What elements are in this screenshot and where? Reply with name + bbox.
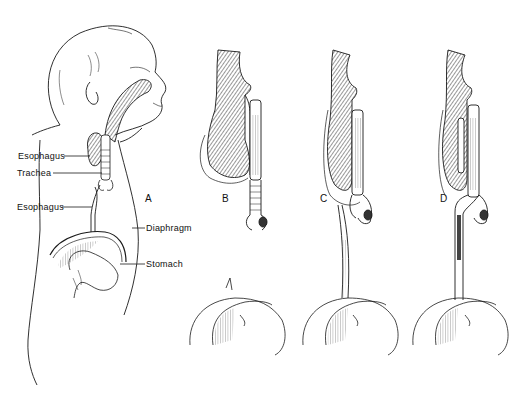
panel-d-diagram bbox=[439, 50, 488, 300]
esophagus-lower-a bbox=[91, 185, 100, 232]
illustration-figure: Esophagus Trachea Esophagus Diaphragm St… bbox=[0, 0, 523, 397]
label-esophagus-upper: Esophagus bbox=[18, 151, 65, 161]
panel-label-d: D bbox=[440, 193, 447, 204]
panel-b-stomach bbox=[190, 278, 285, 355]
panel-label-c: C bbox=[320, 193, 327, 204]
pharynx-shaded bbox=[105, 80, 151, 142]
panel-label-b: B bbox=[222, 193, 229, 204]
panel-d-stomach bbox=[413, 298, 508, 355]
leader-lines bbox=[53, 156, 145, 264]
label-trachea: Trachea bbox=[17, 168, 51, 178]
label-stomach: Stomach bbox=[146, 259, 183, 269]
label-esophagus-lower: Esophagus bbox=[17, 202, 64, 212]
label-diaphragm: Diaphragm bbox=[146, 223, 192, 233]
panel-c-stomach bbox=[303, 298, 398, 355]
panel-label-a: A bbox=[145, 193, 152, 204]
panel-b-diagram bbox=[200, 50, 267, 230]
panel-c-diagram bbox=[324, 50, 372, 298]
